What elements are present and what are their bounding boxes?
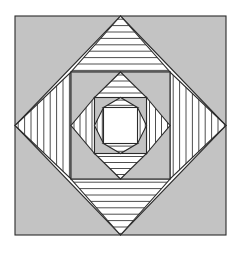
nested-diamond-figure xyxy=(0,0,242,253)
figure-canvas xyxy=(0,0,242,253)
figure-root xyxy=(15,16,226,235)
innermost-square xyxy=(104,108,138,144)
